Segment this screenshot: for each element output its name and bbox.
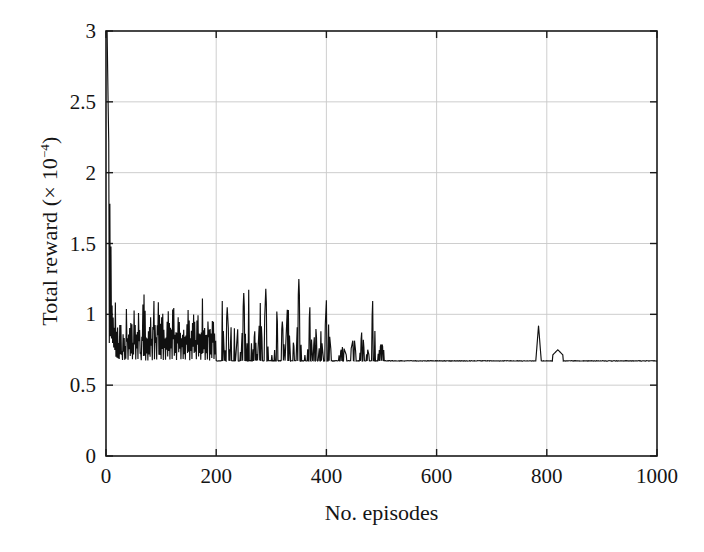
grid-lines (106, 31, 657, 456)
reward-series-line (106, 31, 657, 361)
plot-area (0, 0, 704, 552)
chart-figure: Total reward (× 10−4) 00.511.522.53 0200… (0, 0, 704, 552)
